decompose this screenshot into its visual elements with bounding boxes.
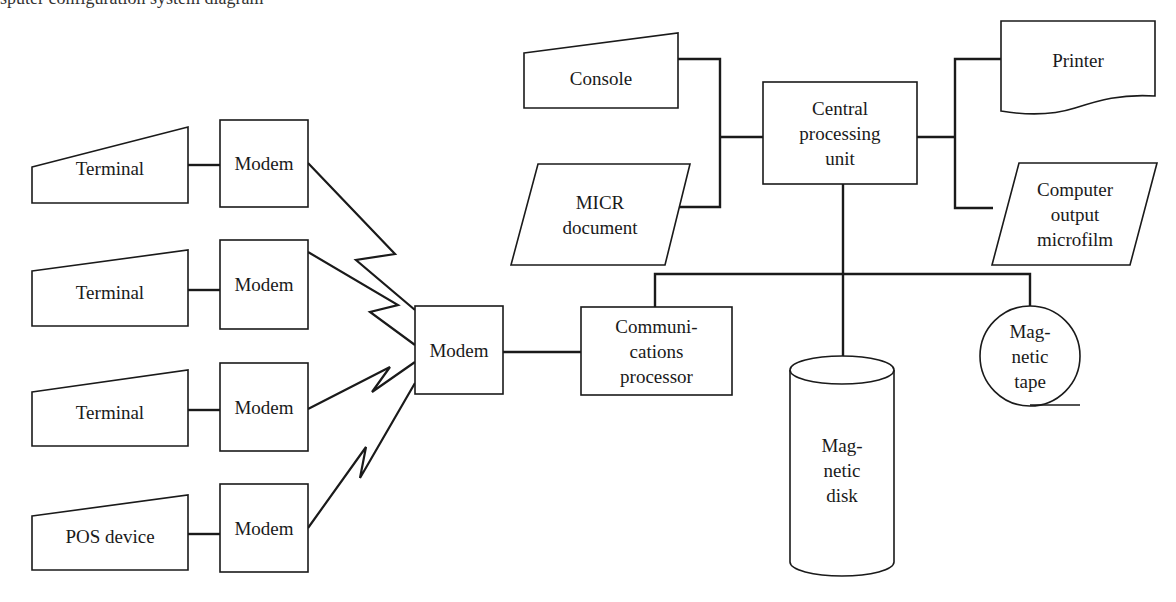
tape-label-1: Mag- — [1009, 319, 1050, 344]
terminal-3-label: Terminal — [76, 400, 144, 425]
modem-2-node: Modem — [220, 240, 308, 329]
com-label-2: output — [1051, 202, 1100, 227]
terminal-1-label: Terminal — [76, 156, 144, 181]
pos-device-label: POS device — [65, 524, 154, 549]
modem-2-label: Modem — [234, 272, 293, 297]
printer-label: Printer — [1052, 48, 1104, 73]
comm-link-modem3 — [308, 362, 415, 409]
terminal-3-node: Terminal — [32, 384, 188, 440]
magnetic-tape-node: Mag- netic tape — [980, 306, 1080, 406]
magnetic-disk-top — [790, 356, 894, 384]
modem-central-label: Modem — [429, 338, 488, 363]
micr-label-1: MICR — [576, 190, 625, 215]
comm-processor-label-1: Communi- — [615, 314, 697, 339]
micr-label-2: document — [563, 215, 638, 240]
cpu-node: Central processing unit — [763, 82, 917, 184]
terminal-2-label: Terminal — [76, 280, 144, 305]
caption-fragment: sputer configuration system diagram — [0, 0, 263, 9]
disk-label-1: Mag- — [821, 433, 862, 458]
com-microfilm-node: Computer output microfilm — [1000, 163, 1150, 265]
cpu-label-1: Central — [812, 96, 868, 121]
modem-central-node: Modem — [415, 306, 503, 394]
com-label-1: Computer — [1037, 177, 1113, 202]
modem-1-node: Modem — [220, 120, 308, 207]
tape-label-3: tape — [1014, 369, 1046, 394]
printer-node: Printer — [1001, 21, 1155, 99]
cpu-label-2: processing — [799, 121, 880, 146]
pos-device-node: POS device — [32, 508, 188, 564]
disk-label-2: netic — [824, 458, 861, 483]
modem-4-label: Modem — [234, 516, 293, 541]
comm-processor-label-3: processor — [620, 364, 693, 389]
tape-label-2: netic — [1012, 344, 1049, 369]
diagram-canvas: sputer configuration system diagram — [0, 0, 1176, 602]
edge-printer-com-bracket — [955, 59, 1001, 208]
modem-4-node: Modem — [220, 484, 308, 572]
terminal-1-node: Terminal — [32, 140, 188, 196]
cpu-label-3: unit — [825, 146, 855, 171]
disk-label-3: disk — [826, 483, 858, 508]
modem-3-label: Modem — [234, 395, 293, 420]
comm-link-modem4 — [308, 383, 415, 528]
micr-document-node: MICR document — [520, 164, 680, 265]
comm-processor-node: Communi- cations processor — [581, 307, 732, 395]
com-label-3: microfilm — [1037, 227, 1113, 252]
modem-1-label: Modem — [234, 151, 293, 176]
magnetic-disk-node: Mag- netic disk — [790, 420, 894, 520]
terminal-2-node: Terminal — [32, 264, 188, 320]
comm-processor-label-2: cations — [630, 339, 684, 364]
console-node: Console — [524, 50, 678, 106]
comm-link-modem1 — [308, 163, 415, 310]
modem-3-node: Modem — [220, 363, 308, 451]
console-label: Console — [570, 66, 632, 91]
